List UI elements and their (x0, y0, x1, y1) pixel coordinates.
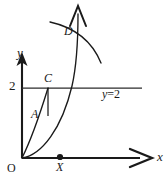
point-label-x: X (56, 161, 63, 173)
x-axis-label: x (157, 150, 163, 163)
curve-label-a: A (31, 108, 38, 120)
point-label-c: C (44, 72, 52, 84)
curve-a (22, 88, 48, 158)
curve-label-d: D (64, 25, 73, 37)
asymptote-label-rhs: 2 (114, 87, 120, 101)
y-axis-label: y (17, 46, 23, 59)
figure-drawing (0, 0, 168, 182)
figure-canvas: y x O 2 C A D X y=2 (0, 0, 168, 182)
arc-curve (50, 22, 101, 63)
origin-label: O (7, 162, 16, 174)
y-tick-label-2: 2 (9, 79, 16, 92)
asymptote-label: y=2 (102, 88, 120, 100)
